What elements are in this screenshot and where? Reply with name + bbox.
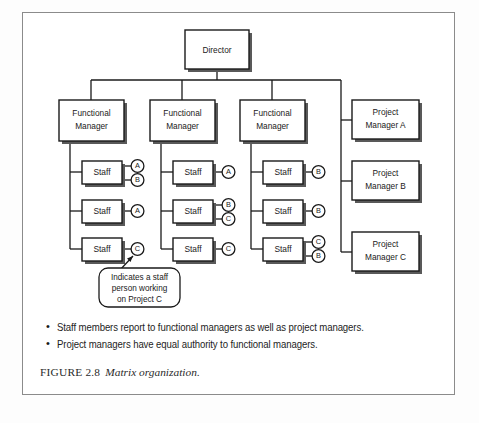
project-circle-B-col3-row3[interactable]: B: [312, 250, 325, 263]
project-circle-B-col1-row1[interactable]: B: [131, 174, 144, 187]
staff-label: Staff: [93, 167, 111, 177]
staff-col2-row2[interactable]: Staff: [173, 200, 216, 226]
project-circle-label: A: [135, 161, 140, 170]
project-circle-label: B: [316, 167, 321, 176]
figure-title: Matrix organization.: [105, 366, 200, 378]
project-circle-A-col1-row2[interactable]: A: [131, 205, 144, 218]
notes-list: • Staff members report to functional man…: [46, 320, 436, 354]
project-circle-B-col2-row2[interactable]: B: [222, 199, 235, 212]
staff-col1-row1[interactable]: Staff: [82, 161, 125, 187]
project-circle-A-col1-row1[interactable]: A: [131, 160, 144, 173]
list-item: • Staff members report to functional man…: [46, 320, 436, 333]
project-circle-label: B: [135, 175, 140, 184]
callout-line3: on Project C: [117, 295, 162, 304]
project-circle-label: B: [316, 206, 321, 215]
figure-page: Director Functional Manager Functional M…: [0, 0, 479, 423]
staff-label: Staff: [93, 206, 111, 216]
staff-col3-row1[interactable]: Staff: [263, 161, 306, 187]
project-circle-C-col3-row3[interactable]: C: [312, 236, 325, 249]
fm1-label-line2: Manager: [75, 121, 108, 131]
pmb-label-line2: Manager B: [365, 181, 406, 191]
project-circle-label: C: [316, 237, 322, 246]
fm2-label-line1: Functional: [163, 108, 201, 118]
project-circle-label: B: [226, 200, 231, 209]
figure-caption: FIGURE 2.8Matrix organization.: [40, 366, 200, 378]
pmc-label-line2: Manager C: [365, 252, 406, 262]
bullet-dot-icon: •: [46, 337, 57, 350]
node-functional-manager-1[interactable]: Functional Manager: [59, 100, 127, 144]
bullet-dot-icon: •: [46, 320, 57, 333]
callout-line1: Indicates a staff: [111, 273, 169, 282]
fm1-label-line1: Functional: [72, 108, 110, 118]
fm3-label-line1: Functional: [253, 108, 291, 118]
project-circle-label: C: [226, 214, 232, 223]
list-item: • Project managers have equal authority …: [46, 337, 436, 350]
staff-label: Staff: [274, 167, 292, 177]
pmb-label-line1: Project: [373, 168, 400, 178]
staff-col3-row3[interactable]: Staff: [263, 238, 306, 264]
staff-col2-row1[interactable]: Staff: [173, 161, 216, 187]
node-functional-manager-2[interactable]: Functional Manager: [150, 100, 218, 144]
staff-label: Staff: [184, 206, 202, 216]
project-circle-A-col2-row1[interactable]: A: [222, 166, 235, 179]
project-circle-B-col3-row1[interactable]: B: [312, 166, 325, 179]
pma-label-line1: Project: [373, 107, 400, 117]
project-circle-C-col2-row3[interactable]: C: [222, 243, 235, 256]
staff-label: Staff: [274, 244, 292, 254]
staff-col3-row2[interactable]: Staff: [263, 200, 306, 226]
staff-col2-row3[interactable]: Staff: [173, 238, 216, 264]
node-project-manager-a[interactable]: Project Manager A: [352, 100, 422, 142]
director-label: Director: [202, 45, 231, 55]
project-circle-label: C: [135, 244, 141, 253]
staff-label: Staff: [184, 167, 202, 177]
node-project-manager-c[interactable]: Project Manager C: [352, 232, 422, 274]
node-director[interactable]: Director: [185, 30, 252, 72]
node-project-manager-b[interactable]: Project Manager B: [352, 161, 422, 203]
fm2-label-line2: Manager: [166, 121, 199, 131]
node-functional-manager-3[interactable]: Functional Manager: [240, 100, 308, 144]
project-circle-label: A: [135, 206, 140, 215]
project-circle-label: C: [226, 244, 232, 253]
project-circle-label: A: [226, 167, 231, 176]
callout-line2: person working: [112, 284, 168, 293]
note-text: Project managers have equal authority to…: [57, 337, 318, 352]
pmc-label-line1: Project: [373, 239, 400, 249]
staff-col1-row2[interactable]: Staff: [82, 200, 125, 226]
project-circle-label: B: [316, 251, 321, 260]
matrix-organization-diagram: Director Functional Manager Functional M…: [0, 0, 479, 423]
fm3-label-line2: Manager: [256, 121, 289, 131]
staff-label: Staff: [184, 244, 202, 254]
pma-label-line2: Manager A: [365, 120, 406, 130]
staff-label: Staff: [93, 244, 111, 254]
figure-number: FIGURE 2.8: [40, 366, 100, 378]
staff-col1-row3[interactable]: Staff: [82, 238, 125, 264]
project-circle-C-col1-row3[interactable]: C: [131, 243, 144, 256]
staff-label: Staff: [274, 206, 292, 216]
note-text: Staff members report to functional manag…: [57, 320, 364, 335]
project-circle-B-col3-row2[interactable]: B: [312, 205, 325, 218]
project-circle-C-col2-row2[interactable]: C: [222, 213, 235, 226]
